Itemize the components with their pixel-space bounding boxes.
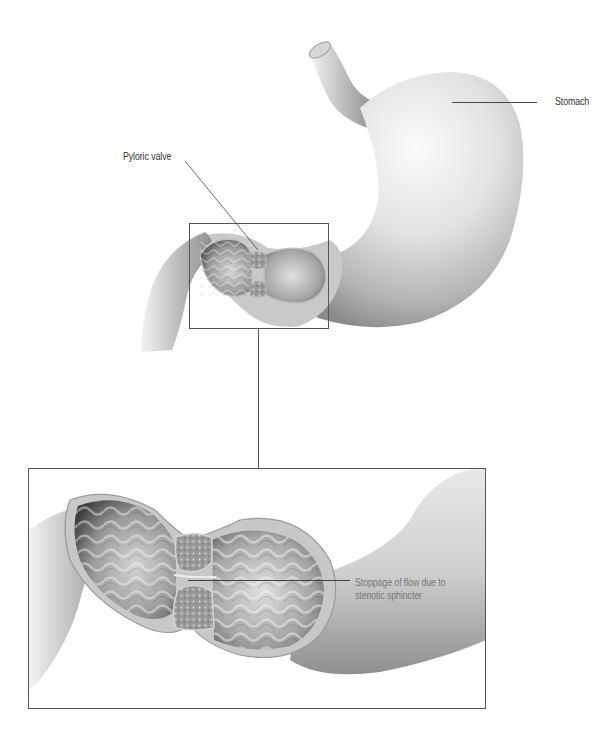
stomach-illustration xyxy=(0,0,610,756)
stoppage-label-line2: stenotic sphincter xyxy=(355,589,422,602)
stomach-overview xyxy=(142,39,524,352)
stomach-label: Stomach xyxy=(555,96,589,107)
stoppage-label-line1: Stoppage of flow due to xyxy=(355,576,445,589)
pyloric-valve-label: Pyloric valve xyxy=(123,151,171,162)
